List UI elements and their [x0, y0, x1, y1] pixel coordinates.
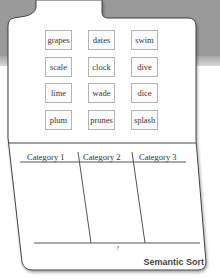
word-card[interactable]: clock: [88, 57, 115, 77]
word-card[interactable]: prunes: [88, 110, 115, 130]
word-card[interactable]: grapes: [45, 30, 72, 50]
word-card[interactable]: splash: [131, 110, 158, 130]
word-card[interactable]: plum: [45, 110, 72, 130]
category-2-label: Category 2: [83, 152, 121, 162]
word-card[interactable]: dive: [131, 57, 158, 77]
word-card[interactable]: scale: [45, 57, 72, 77]
bottom-question-mark: ?: [116, 244, 119, 252]
word-card[interactable]: lime: [45, 83, 72, 103]
diagram-title: Semantic Sort: [143, 257, 204, 267]
category-3-label: Category 3: [139, 152, 177, 162]
word-card[interactable]: wade: [88, 83, 115, 103]
word-card[interactable]: dice: [131, 83, 158, 103]
word-card[interactable]: swim: [131, 30, 158, 50]
category-1-label: Category 1: [27, 152, 65, 162]
word-card[interactable]: dates: [88, 30, 115, 50]
